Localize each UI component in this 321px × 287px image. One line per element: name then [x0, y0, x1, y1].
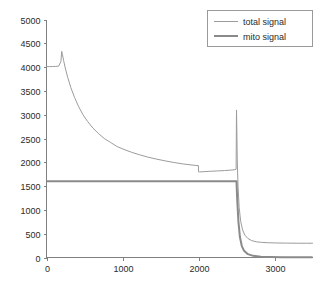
y-tick-label: 4500 [20, 39, 40, 49]
y-tick-label: 1500 [20, 182, 40, 192]
x-tick-label: 1000 [113, 264, 133, 274]
y-tick-label: 3000 [20, 111, 40, 121]
y-tick-label: 3500 [20, 87, 40, 97]
y-tick-label: 2500 [20, 135, 40, 145]
legend-label-mito-signal: mito signal [243, 32, 286, 42]
y-tick-label: 1000 [20, 206, 40, 216]
y-tick-label: 500 [25, 230, 40, 240]
legend: total signal mito signal [208, 11, 313, 47]
y-tick-label: 4000 [20, 63, 40, 73]
chart-container: 0500100015002000250030003500400045005000… [0, 0, 321, 287]
line-chart: 0500100015002000250030003500400045005000… [0, 0, 321, 287]
y-tick-label: 5000 [20, 16, 40, 26]
legend-label-total-signal: total signal [243, 17, 286, 27]
x-tick-label: 3000 [265, 264, 285, 274]
x-tick-label: 0 [45, 264, 50, 274]
y-tick-label: 2000 [20, 158, 40, 168]
x-tick-label: 2000 [189, 264, 209, 274]
y-tick-label: 0 [35, 254, 40, 264]
